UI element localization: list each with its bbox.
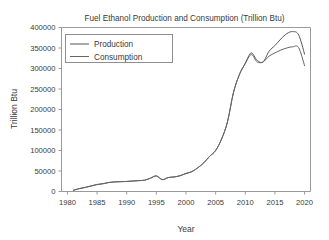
legend-label-production: Production (94, 40, 134, 49)
x-tick-label: 1980 (59, 198, 76, 207)
x-tick-label: 1995 (148, 198, 165, 207)
y-tick-label: 50000 (34, 167, 55, 176)
line-chart: Fuel Ethanol Production and Consumption … (0, 0, 329, 240)
x-axis-ticks: 198019851990199520002005201020152020 (59, 192, 313, 207)
y-tick-label: 200000 (30, 105, 55, 114)
x-axis-label: Year (177, 224, 194, 234)
y-tick-label: 350000 (30, 44, 55, 53)
y-tick-label: 150000 (30, 126, 55, 135)
y-tick-label: 300000 (30, 64, 55, 73)
x-tick-label: 2010 (237, 198, 254, 207)
x-tick-label: 1990 (118, 198, 135, 207)
series-line-consumption (73, 46, 304, 190)
y-axis-label: Trillion Btu (9, 89, 19, 129)
y-axis-ticks: 0500001000001500002000002500003000003500… (30, 23, 61, 196)
x-tick-label: 2005 (207, 198, 224, 207)
x-tick-label: 2000 (178, 198, 195, 207)
y-tick-label: 400000 (30, 23, 55, 32)
x-tick-label: 2020 (296, 198, 313, 207)
chart-title: Fuel Ethanol Production and Consumption … (85, 14, 285, 23)
legend-label-consumption: Consumption (94, 53, 143, 62)
chart-figure: Fuel Ethanol Production and Consumption … (0, 0, 329, 240)
y-tick-label: 250000 (30, 85, 55, 94)
x-tick-label: 1985 (89, 198, 106, 207)
y-tick-label: 100000 (30, 146, 55, 155)
y-tick-label: 0 (51, 187, 55, 196)
x-tick-label: 2015 (266, 198, 283, 207)
chart-legend: ProductionConsumption (66, 35, 173, 63)
